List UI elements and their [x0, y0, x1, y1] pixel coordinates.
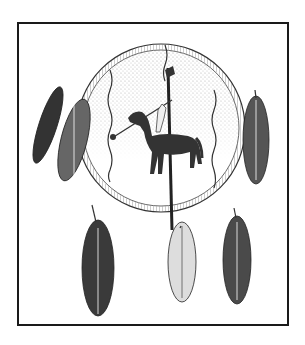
shield-illustration: [0, 0, 305, 345]
lance-tip: [110, 134, 116, 140]
